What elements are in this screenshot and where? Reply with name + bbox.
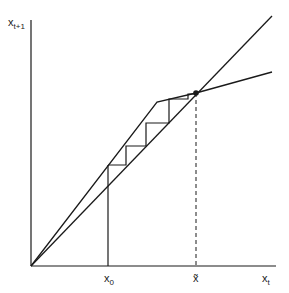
fixed-point-marker	[193, 90, 199, 96]
cobweb-staircase	[108, 94, 196, 165]
cobweb-diagram: xt+1 xt x0 x̃	[0, 0, 289, 293]
x0-tick-label: x0	[104, 272, 115, 287]
y-axis-label: xt+1	[8, 16, 25, 31]
x-axis-label: xt	[262, 272, 271, 287]
diagonal-45-line	[31, 16, 272, 266]
xtilde-tick-label: x̃	[193, 272, 199, 284]
map-curve	[31, 72, 272, 266]
